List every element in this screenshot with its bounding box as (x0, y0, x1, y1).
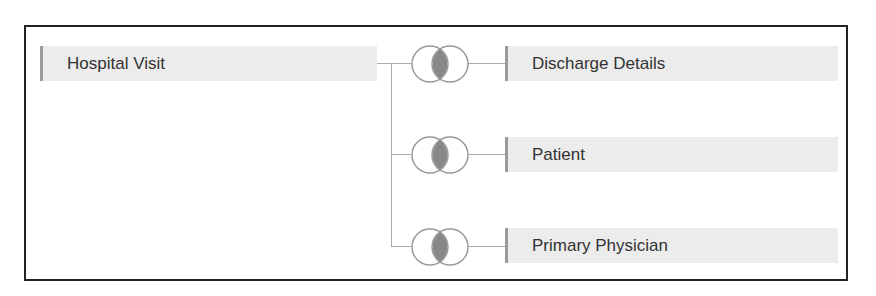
table-patient[interactable]: Patient (505, 137, 838, 172)
table-label: Patient (508, 145, 585, 165)
connector-line (468, 63, 505, 64)
inner-join-icon[interactable] (409, 227, 471, 267)
connector-line (391, 246, 411, 247)
table-discharge-details[interactable]: Discharge Details (505, 46, 838, 81)
table-primary-physician[interactable]: Primary Physician (505, 228, 838, 263)
connector-line (468, 154, 505, 155)
connector-line (377, 63, 411, 64)
inner-join-icon[interactable] (409, 135, 471, 175)
connector-line (468, 246, 505, 247)
inner-join-icon[interactable] (409, 44, 471, 84)
table-label: Discharge Details (508, 54, 665, 74)
table-hospital-visit[interactable]: Hospital Visit (40, 46, 377, 81)
table-label: Hospital Visit (43, 54, 165, 74)
table-label: Primary Physician (508, 236, 668, 256)
connector-line (391, 154, 411, 155)
connector-line (391, 63, 392, 247)
